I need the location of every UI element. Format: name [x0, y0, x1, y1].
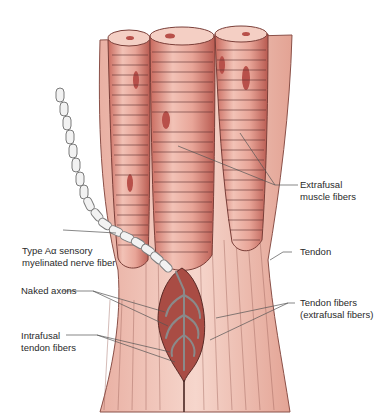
label-tendon: Tendon — [300, 246, 331, 258]
label-intrafusal-tendon-fibers: Intrafusal tendon fibers — [21, 330, 76, 353]
label-nerve-fiber: Type Aα sensory myelinated nerve fiber — [22, 245, 115, 268]
label-extrafusal-muscle-fibers: Extrafusal muscle fibers — [300, 179, 356, 202]
label-tendon-fibers: Tendon fibers (extrafusal fibers) — [300, 297, 373, 320]
extrafusal-muscle-fibers — [108, 26, 268, 270]
muscle-fiber-center — [150, 27, 215, 270]
golgi-tendon-organ-illustration — [0, 0, 385, 420]
label-naked-axons: Naked axons — [21, 285, 76, 297]
